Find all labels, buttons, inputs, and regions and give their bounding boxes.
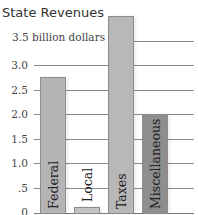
gridline (134, 41, 194, 42)
y-tick-label: 1.5 (0, 133, 28, 145)
y-tick-label: 0 (0, 206, 28, 215)
bar-federal: Federal (40, 77, 66, 214)
bar-label: Federal (46, 161, 61, 209)
y-tick-label: 3.0 (0, 59, 28, 71)
chart-area: State Revenues 3.5 billion dollars 0.51.… (0, 0, 198, 214)
y-tick-label: 2.0 (0, 108, 28, 120)
bar-miscellaneous: Miscellaneous (142, 114, 168, 214)
y-tick-3.5: 3.5 billion dollars (12, 31, 105, 43)
y-tick-label: 2.5 (0, 84, 28, 96)
bar-label: Miscellaneous (148, 119, 163, 210)
chart-title: State Revenues (2, 5, 104, 20)
bar-taxes: Taxes (108, 16, 134, 214)
bar-label: Taxes (114, 173, 129, 209)
bar-label: Local (80, 168, 95, 202)
y-tick-label: .5 (0, 182, 28, 194)
bar-local: Local (74, 207, 100, 214)
y-tick-label: 1.0 (0, 157, 28, 169)
